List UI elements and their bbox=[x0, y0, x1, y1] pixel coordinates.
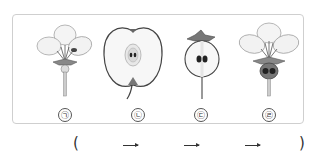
young-fruit-icon bbox=[179, 19, 225, 104]
arrow-icon bbox=[184, 145, 199, 146]
arrow-icon bbox=[123, 145, 138, 146]
arrow-icon bbox=[245, 145, 260, 146]
open-paren: ( bbox=[73, 134, 79, 152]
figure-young-fruit bbox=[179, 19, 225, 104]
apple-section-icon bbox=[101, 19, 165, 104]
close-paren: ) bbox=[299, 134, 305, 152]
label-c: ㉢ bbox=[194, 108, 208, 122]
flower-icon bbox=[35, 19, 95, 104]
flower-ovary-icon bbox=[237, 19, 301, 104]
figure-flower bbox=[35, 19, 95, 104]
label-d: ㉣ bbox=[262, 108, 276, 122]
figure-mature-apple bbox=[101, 19, 165, 104]
answer-row: ( ) bbox=[0, 134, 323, 158]
label-a: ㉠ bbox=[58, 108, 72, 122]
label-b: ㉡ bbox=[131, 108, 145, 122]
figure-box: ㉠ ㉡ ㉢ ㉣ bbox=[12, 14, 304, 124]
figure-flower-ovary bbox=[237, 19, 301, 104]
